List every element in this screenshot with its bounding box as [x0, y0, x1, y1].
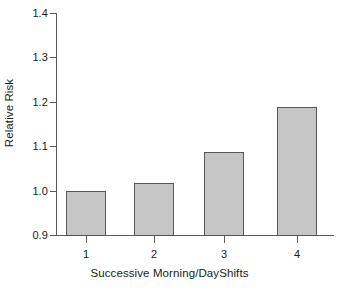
y-tick-mark — [50, 102, 57, 103]
y-axis-title: Relative Risk — [3, 68, 15, 158]
bar-1 — [66, 191, 106, 236]
x-tick-mark — [154, 236, 155, 243]
x-axis-title: Successive Morning/DayShifts — [0, 267, 339, 279]
y-tick-mark — [50, 235, 57, 236]
y-tick-mark — [50, 191, 57, 192]
x-tick-mark — [297, 236, 298, 243]
bar-3 — [204, 152, 244, 236]
y-tick-label: 1.0 — [2, 186, 48, 197]
y-tick-label: 1.4 — [2, 8, 48, 19]
x-tick-label: 1 — [66, 249, 106, 260]
y-axis-spine — [56, 13, 57, 236]
x-tick-mark — [86, 236, 87, 243]
bar-chart-figure: 1.41.31.21.11.00.9 1234 Successive Morni… — [0, 0, 339, 293]
x-tick-label: 4 — [277, 249, 317, 260]
bar-4 — [277, 107, 317, 236]
bar-2 — [134, 183, 174, 236]
y-tick-mark — [50, 13, 57, 14]
x-tick-label: 2 — [134, 249, 174, 260]
y-tick-label: 1.3 — [2, 52, 48, 63]
y-tick-mark — [50, 146, 57, 147]
x-tick-mark — [224, 236, 225, 243]
x-tick-label: 3 — [204, 249, 244, 260]
y-tick-mark — [50, 57, 57, 58]
y-tick-label: 0.9 — [2, 230, 48, 241]
